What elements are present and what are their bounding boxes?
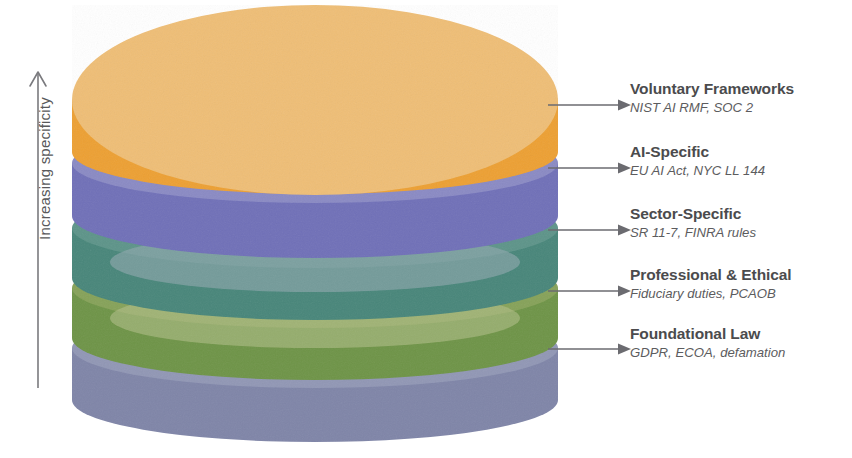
callout-subtitle: Fiduciary duties, PCAOB bbox=[630, 286, 852, 303]
callout-subtitle: GDPR, ECOA, defamation bbox=[630, 345, 852, 362]
callout-subtitle: SR 11-7, FINRA rules bbox=[630, 225, 852, 242]
callout-sector-specific: Sector-Specific SR 11-7, FINRA rules bbox=[630, 205, 852, 242]
callout-ai-specific: AI-Specific EU AI Act, NYC LL 144 bbox=[630, 143, 852, 180]
callout-title: Foundational Law bbox=[630, 325, 852, 343]
callout-title: Professional & Ethical bbox=[630, 266, 852, 284]
connector-arrow-5 bbox=[548, 344, 631, 355]
connector-arrow-4 bbox=[548, 286, 631, 297]
callout-voluntary-frameworks: Voluntary Frameworks NIST AI RMF, SOC 2 bbox=[630, 80, 852, 117]
callout-title: AI-Specific bbox=[630, 143, 852, 161]
callout-professional-ethical: Professional & Ethical Fiduciary duties,… bbox=[630, 266, 852, 303]
callout-title: Sector-Specific bbox=[630, 205, 852, 223]
connector-arrow-1 bbox=[548, 100, 631, 111]
diagram-canvas: Increasing specificity bbox=[0, 0, 852, 458]
texture-overlay bbox=[72, 5, 558, 442]
connector-arrow-3 bbox=[548, 225, 631, 236]
callout-list: Voluntary Frameworks NIST AI RMF, SOC 2 … bbox=[630, 0, 852, 458]
callout-title: Voluntary Frameworks bbox=[630, 80, 852, 98]
callout-subtitle: NIST AI RMF, SOC 2 bbox=[630, 100, 852, 117]
connector-arrows bbox=[540, 0, 636, 458]
connector-arrow-2 bbox=[548, 163, 631, 174]
callout-subtitle: EU AI Act, NYC LL 144 bbox=[630, 163, 852, 180]
callout-foundational-law: Foundational Law GDPR, ECOA, defamation bbox=[630, 325, 852, 362]
